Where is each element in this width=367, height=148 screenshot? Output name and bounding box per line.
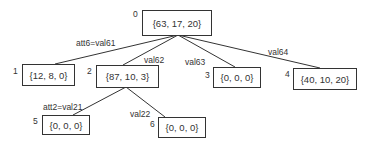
node-value-1: {12, 8, 0} bbox=[29, 70, 67, 81]
node-value-5: {0, 0, 0} bbox=[50, 120, 83, 131]
node-index-0: 0 bbox=[133, 9, 138, 19]
node-index-3: 3 bbox=[205, 70, 210, 80]
node-index-4: 4 bbox=[285, 69, 290, 79]
node-value-0: {63, 17, 20} bbox=[153, 18, 202, 29]
tree-node-2: {87, 10, 3} bbox=[96, 65, 159, 88]
node-value-6: {0, 0, 0} bbox=[166, 122, 199, 133]
node-index-2: 2 bbox=[87, 66, 92, 76]
edge-label-0-1: att6=val61 bbox=[76, 38, 115, 48]
tree-node-5: {0, 0, 0} bbox=[42, 115, 90, 135]
tree-node-0: {63, 17, 20} bbox=[142, 10, 212, 36]
node-index-1: 1 bbox=[13, 66, 18, 76]
tree-node-3: {0, 0, 0} bbox=[213, 67, 261, 88]
node-value-2: {87, 10, 3} bbox=[106, 71, 149, 82]
node-value-3: {0, 0, 0} bbox=[221, 72, 254, 83]
tree-node-1: {12, 8, 0} bbox=[22, 64, 75, 86]
tree-node-4: {40, 10, 20} bbox=[293, 68, 357, 90]
edge-label-2-5: att2=val21 bbox=[43, 102, 82, 112]
tree-node-6: {0, 0, 0} bbox=[158, 117, 206, 138]
node-value-4: {40, 10, 20} bbox=[301, 74, 350, 85]
edge-label-0-2: val62 bbox=[144, 55, 164, 65]
edge-label-0-4: val64 bbox=[268, 47, 288, 57]
node-index-6: 6 bbox=[150, 119, 155, 129]
edge-label-2-6: val22 bbox=[130, 109, 150, 119]
edge-label-0-3: val63 bbox=[185, 57, 205, 67]
node-index-5: 5 bbox=[33, 116, 38, 126]
